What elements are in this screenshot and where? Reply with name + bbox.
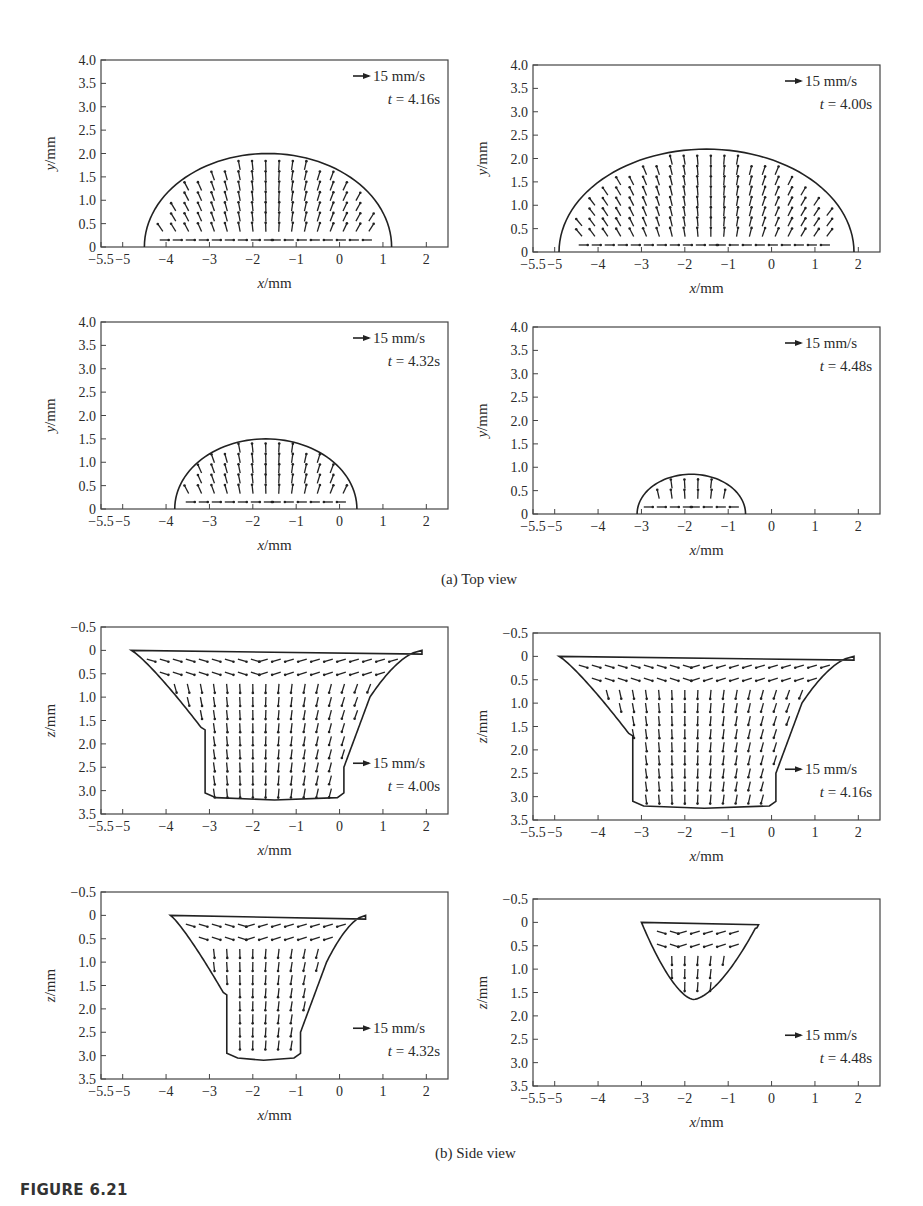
x-tick-label: 0 bbox=[336, 514, 343, 529]
x-tick-label: −5 bbox=[115, 514, 130, 529]
x-tick-label: 0 bbox=[336, 1084, 343, 1099]
caption-side-view: (b) Side view bbox=[435, 1145, 516, 1162]
y-tick-label: 1.0 bbox=[511, 962, 529, 977]
y-tick-label: 2.0 bbox=[511, 1009, 529, 1024]
y-tick-label: −0.5 bbox=[503, 892, 528, 907]
x-tick-label: −4 bbox=[591, 519, 606, 534]
time-label: t = 4.16s bbox=[388, 91, 440, 107]
reference-vector-label: 15 mm/s bbox=[373, 1020, 425, 1036]
x-axis-label: x/mm bbox=[688, 280, 724, 296]
x-tick-label: −2 bbox=[245, 819, 260, 834]
x-tick-label: −5 bbox=[547, 257, 562, 272]
y-tick-label: 2.0 bbox=[511, 414, 529, 429]
y-tick-label: 1.5 bbox=[79, 170, 97, 185]
y-tick-label: 2.0 bbox=[79, 409, 97, 424]
quiver-plot: −5.5−5−4−3−2−101200.51.01.52.02.53.03.54… bbox=[30, 50, 460, 300]
velocity-vectors bbox=[579, 665, 830, 805]
plot-side-view-t432: −5.5−5−4−3−2−1012−0.500.51.01.52.02.53.0… bbox=[30, 882, 460, 1132]
x-tick-label: −3 bbox=[202, 819, 217, 834]
pool-boundary bbox=[559, 656, 854, 808]
x-tick-label: −5 bbox=[115, 252, 130, 267]
x-tick-label: −3 bbox=[634, 257, 649, 272]
x-tick-label: −1 bbox=[721, 257, 736, 272]
velocity-vectors bbox=[183, 442, 348, 503]
x-tick-label: −1 bbox=[289, 1084, 304, 1099]
y-tick-label: 3.5 bbox=[511, 81, 529, 96]
x-tick-label: 1 bbox=[811, 825, 818, 840]
x-tick-label: 2 bbox=[855, 519, 862, 534]
y-tick-label: 3.5 bbox=[511, 1079, 529, 1094]
x-tick-label: −2 bbox=[245, 1084, 260, 1099]
y-tick-label: 0.5 bbox=[511, 222, 529, 237]
x-tick-label: 1 bbox=[379, 819, 386, 834]
y-tick-label: 2.5 bbox=[511, 390, 529, 405]
y-tick-label: 2.5 bbox=[79, 385, 97, 400]
time-label: t = 4.48s bbox=[820, 1050, 872, 1066]
time-label: t = 4.16s bbox=[820, 784, 872, 800]
y-tick-label: 2.0 bbox=[79, 737, 97, 752]
x-tick-label: −1 bbox=[721, 1091, 736, 1106]
x-tick-label: −3 bbox=[634, 825, 649, 840]
plot-top-view-t400: −5.5−5−4−3−2−101200.51.01.52.02.53.03.54… bbox=[462, 55, 892, 305]
time-label: t = 4.48s bbox=[820, 358, 872, 374]
y-tick-label: 3.0 bbox=[79, 784, 97, 799]
x-tick-label: −3 bbox=[634, 519, 649, 534]
plot-side-view-t416: −5.5−5−4−3−2−1012−0.500.51.01.52.02.53.0… bbox=[462, 623, 892, 873]
x-tick-label: −5 bbox=[547, 519, 562, 534]
x-tick-label: 0 bbox=[336, 819, 343, 834]
x-tick-label: 2 bbox=[423, 252, 430, 267]
velocity-vectors bbox=[575, 154, 834, 246]
x-tick-label: −1 bbox=[721, 825, 736, 840]
x-tick-label: −1 bbox=[289, 252, 304, 267]
y-tick-label: 3.0 bbox=[511, 367, 529, 382]
x-tick-label: −3 bbox=[202, 1084, 217, 1099]
x-axis-label: x/mm bbox=[256, 842, 292, 858]
y-tick-label: 0 bbox=[89, 643, 96, 658]
x-tick-label: 2 bbox=[855, 257, 862, 272]
quiver-plot: −5.5−5−4−3−2−101200.51.01.52.02.53.03.54… bbox=[462, 55, 892, 305]
x-tick-label: −3 bbox=[202, 252, 217, 267]
x-tick-label: 0 bbox=[768, 257, 775, 272]
y-tick-label: 1.5 bbox=[511, 175, 529, 190]
y-tick-label: 3.5 bbox=[511, 813, 529, 828]
plot-side-view-t400: −5.5−5−4−3−2−1012−0.500.51.01.52.02.53.0… bbox=[30, 617, 460, 867]
y-tick-label: −0.5 bbox=[71, 885, 96, 900]
reference-vector-label: 15 mm/s bbox=[373, 68, 425, 84]
figure-label: FIGURE 6.21 bbox=[20, 1181, 128, 1199]
x-tick-label: −5 bbox=[115, 819, 130, 834]
x-tick-label: −5 bbox=[547, 1091, 562, 1106]
quiver-plot: −5.5−5−4−3−2−1012−0.500.51.01.52.02.53.0… bbox=[462, 889, 892, 1139]
y-tick-label: 1.5 bbox=[511, 720, 529, 735]
y-tick-label: 3.0 bbox=[511, 1056, 529, 1071]
y-tick-label: 2.0 bbox=[79, 1002, 97, 1017]
y-tick-label: 1.0 bbox=[79, 690, 97, 705]
x-tick-label: 2 bbox=[855, 825, 862, 840]
y-tick-label: 2.5 bbox=[511, 128, 529, 143]
x-tick-label: 0 bbox=[768, 1091, 775, 1106]
y-tick-label: 0.5 bbox=[79, 932, 97, 947]
x-tick-label: −4 bbox=[591, 825, 606, 840]
y-tick-label: 0 bbox=[521, 649, 528, 664]
velocity-vectors bbox=[186, 924, 346, 1051]
y-tick-label: 3.5 bbox=[79, 807, 97, 822]
y-tick-label: 1.0 bbox=[79, 955, 97, 970]
y-tick-label: 4.0 bbox=[511, 320, 529, 335]
quiver-plot: −5.5−5−4−3−2−101200.51.01.52.02.53.03.54… bbox=[30, 312, 460, 562]
y-tick-label: 1.0 bbox=[511, 696, 529, 711]
x-tick-label: −3 bbox=[634, 1091, 649, 1106]
y-tick-label: 3.5 bbox=[511, 343, 529, 358]
y-tick-label: 2.5 bbox=[511, 766, 529, 781]
y-tick-label: 1.0 bbox=[511, 460, 529, 475]
y-tick-label: 0.5 bbox=[511, 939, 529, 954]
y-tick-label: 2.5 bbox=[79, 760, 97, 775]
reference-vector-label: 15 mm/s bbox=[805, 73, 857, 89]
x-tick-label: 1 bbox=[379, 1084, 386, 1099]
reference-vector-label: 15 mm/s bbox=[805, 1027, 857, 1043]
quiver-plot: −5.5−5−4−3−2−1012−0.500.51.01.52.02.53.0… bbox=[30, 882, 460, 1132]
y-tick-label: 0 bbox=[521, 915, 528, 930]
y-tick-label: 1.5 bbox=[79, 714, 97, 729]
plot-frame bbox=[533, 327, 880, 514]
y-tick-label: 3.5 bbox=[79, 1072, 97, 1087]
x-tick-label: −1 bbox=[721, 519, 736, 534]
quiver-plot: −5.5−5−4−3−2−101200.51.01.52.02.53.03.54… bbox=[462, 317, 892, 567]
